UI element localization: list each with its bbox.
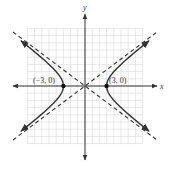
- y-axis-label: y: [82, 3, 87, 12]
- vertex-left-label: (−3, 0): [33, 76, 55, 85]
- vertex-left-point: [61, 84, 65, 88]
- x-axis-label: x: [159, 82, 164, 91]
- hyperbola-graph: x y (−3, 0) (3, 0): [0, 0, 170, 170]
- vertex-right-label: (3, 0): [109, 76, 127, 85]
